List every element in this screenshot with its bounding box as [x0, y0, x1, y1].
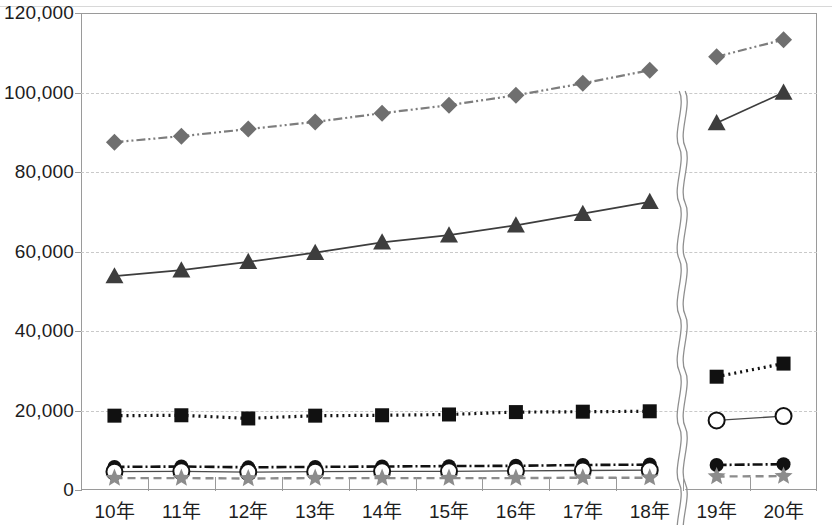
x-axis-band-cell [482, 477, 549, 491]
x-axis-band [81, 477, 817, 491]
x-axis-tick-label: 11年 [162, 496, 201, 523]
x-axis-tick-label: 14年 [362, 496, 402, 523]
x-axis-band-cell [81, 477, 148, 491]
x-axis-band-cell [549, 477, 616, 491]
y-axis-tick-label: 20,000 [15, 400, 74, 422]
x-axis-tick-label: 12年 [228, 496, 268, 523]
x-axis-band-cell [750, 477, 817, 491]
top-divider-rule [0, 6, 832, 7]
axis-break-symbol [81, 13, 817, 490]
chart-container: 020,00040,00060,00080,000100,000120,000 … [0, 0, 832, 525]
plot-area [81, 13, 817, 490]
x-axis-band-cell [215, 477, 282, 491]
y-axis-tick-label: 100,000 [4, 82, 74, 104]
x-axis-tick-label: 20年 [763, 496, 803, 523]
x-axis-band-cell [349, 477, 416, 491]
y-axis-tick-label: 0 [63, 479, 74, 501]
x-axis-tick-label: 13年 [295, 496, 335, 523]
y-axis-tick-label: 40,000 [15, 320, 74, 342]
x-axis-band-cell [416, 477, 483, 491]
y-axis-tick-label: 80,000 [15, 161, 74, 183]
x-axis-tick-label: 17年 [563, 496, 603, 523]
x-axis-band-cell [148, 477, 215, 491]
x-axis-band-cell [616, 477, 683, 491]
y-axis-tick-label: 60,000 [15, 241, 74, 263]
x-axis-band-cell [282, 477, 349, 491]
x-axis-band-cell [683, 477, 750, 491]
x-axis-tick-label: 10年 [94, 496, 134, 523]
x-axis-tick-label: 18年 [630, 496, 670, 523]
x-axis-tick-label: 15年 [429, 496, 469, 523]
y-axis-labels: 020,00040,00060,00080,000100,000120,000 [0, 0, 74, 525]
x-axis-tick-label: 19年 [697, 496, 737, 523]
y-axis-tick-label: 120,000 [4, 2, 74, 24]
x-axis-tick-label: 16年 [496, 496, 536, 523]
